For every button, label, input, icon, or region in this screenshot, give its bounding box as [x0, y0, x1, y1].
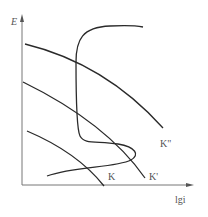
y-axis-label: E — [11, 17, 17, 27]
curve-k-double-prime — [25, 44, 163, 128]
y-axis-arrow-icon — [20, 14, 24, 22]
curve-k-prime-label: K' — [149, 172, 158, 182]
x-axis-label: lgi — [175, 195, 186, 205]
curve-k — [27, 131, 104, 186]
curve-k-label: K — [108, 172, 115, 182]
x-axis-arrow-icon — [186, 183, 194, 187]
polarization-diagram — [0, 0, 208, 217]
curve-k-prime — [23, 82, 145, 178]
curve-k-double-prime-label: K" — [160, 139, 171, 149]
curve-anodic-polarization — [47, 26, 143, 176]
